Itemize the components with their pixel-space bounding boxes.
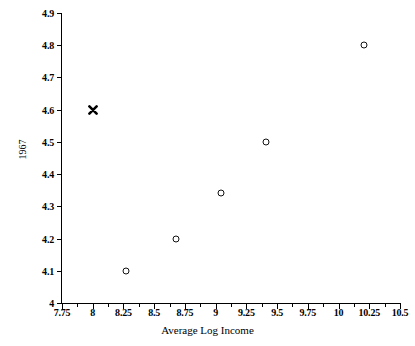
x-tick-label: 8: [90, 307, 95, 318]
y-tick-label: 4.4: [42, 169, 54, 180]
x-tick-label: 8.75: [177, 307, 194, 318]
y-tick-label: 4.8: [42, 40, 54, 51]
x-tick-label: 8.25: [115, 307, 132, 318]
y-tick-label: 4.3: [42, 201, 54, 212]
y-tick-major: [57, 303, 62, 304]
y-tick-label: 4.7: [42, 72, 54, 83]
y-tick-label: 4.9: [42, 8, 54, 19]
scatter-plot-figure: 7.7588.258.58.7599.259.59.751010.2510.5 …: [0, 0, 415, 346]
x-tick-minor: [385, 304, 386, 307]
y-tick-label: 4.6: [42, 104, 54, 115]
y-axis-title: 1967: [17, 120, 28, 180]
x-tick-label: 10: [334, 307, 344, 318]
x-tick-label: 9.75: [299, 307, 316, 318]
data-point-circle-marker: [173, 235, 180, 242]
data-point-x-marker: [88, 105, 98, 115]
x-tick-label: 10.25: [359, 307, 381, 318]
x-axis-title: Average Log Income: [0, 324, 415, 336]
x-tick-minor: [139, 304, 140, 307]
y-tick-label: 4.1: [42, 265, 54, 276]
y-tick-label: 4.2: [42, 233, 54, 244]
x-tick-label: 9.5: [271, 307, 283, 318]
x-tick-label: 9: [213, 307, 218, 318]
x-tick-minor: [292, 304, 293, 307]
plot-area: [62, 13, 400, 303]
x-tick-minor: [170, 304, 171, 307]
x-tick-label: 10.5: [392, 307, 409, 318]
data-point-circle-marker: [263, 138, 270, 145]
y-tick-label: 4: [49, 298, 54, 309]
x-tick-minor: [77, 304, 78, 307]
x-tick-minor: [231, 304, 232, 307]
x-tick-label: 7.75: [54, 307, 71, 318]
y-tick-label: 4.5: [42, 136, 54, 147]
x-tick-label: 8.5: [148, 307, 160, 318]
x-tick-minor: [262, 304, 263, 307]
x-tick-minor: [108, 304, 109, 307]
data-point-circle-marker: [217, 190, 224, 197]
data-point-circle-marker: [122, 267, 129, 274]
x-tick-label: 9.25: [238, 307, 255, 318]
x-tick-minor: [323, 304, 324, 307]
x-tick-minor: [200, 304, 201, 307]
x-tick-minor: [354, 304, 355, 307]
data-point-circle-marker: [361, 42, 368, 49]
